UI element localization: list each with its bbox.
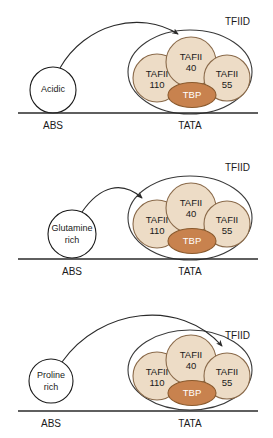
taf110-label-line2: 110 — [149, 225, 164, 236]
activator-circle — [48, 210, 96, 258]
taf110-label-line1: TAFII — [146, 68, 169, 79]
taf55-label-line2: 55 — [222, 225, 233, 236]
activator-label-line1: Glutamine — [51, 223, 92, 233]
tfiid-label: TFIID — [225, 16, 250, 27]
tfiid-activator-diagram: TAFII 110 TAFII 40 TAFII 55 TBP TFIID Ac… — [0, 0, 273, 438]
taf55-label-line2: 55 — [222, 377, 233, 388]
taf110-label-line1: TAFII — [146, 366, 169, 377]
activator-label-line1: Proline — [37, 370, 65, 380]
activator-circle — [29, 359, 73, 403]
tbp-label: TBP — [183, 89, 201, 100]
tbp-label: TBP — [183, 235, 201, 246]
activator-label-line2: rich — [65, 235, 80, 245]
tbp-label: TBP — [183, 387, 201, 398]
abs-label: ABS — [62, 266, 82, 277]
abs-label: ABS — [43, 120, 63, 131]
abs-label: ABS — [41, 418, 61, 429]
activator-label-line2: rich — [44, 382, 59, 392]
tfiid-label: TFIID — [225, 330, 250, 341]
tata-label: TATA — [178, 418, 202, 429]
taf110-label-line2: 110 — [149, 377, 164, 388]
interaction-arrow — [82, 188, 142, 212]
tata-label: TATA — [178, 120, 202, 131]
panel-proline-rich: TAFII 110 TAFII 40 TAFII 55 TBP TFIID Pr… — [0, 292, 273, 438]
taf40-label-line1: TAFII — [180, 197, 203, 208]
panel-glutamine-rich: TAFII 110 TAFII 40 TAFII 55 TBP TFIID Gl… — [0, 146, 273, 292]
taf110-label-line1: TAFII — [146, 214, 169, 225]
taf110-label-line2: 110 — [149, 79, 164, 90]
taf40-label-line1: TAFII — [180, 51, 203, 62]
taf55-label-line1: TAFII — [216, 366, 239, 377]
panel-acidic: TAFII 110 TAFII 40 TAFII 55 TBP TFIID Ac… — [0, 0, 273, 146]
taf40-label-line1: TAFII — [180, 349, 203, 360]
tata-label: TATA — [178, 266, 202, 277]
taf40-label-line2: 40 — [186, 208, 197, 219]
taf55-label-line1: TAFII — [216, 68, 239, 79]
taf55-label-line2: 55 — [222, 79, 233, 90]
tfiid-label: TFIID — [225, 162, 250, 173]
taf55-label-line1: TAFII — [216, 214, 239, 225]
activator-label-line1: Acidic — [41, 84, 66, 94]
taf40-label-line2: 40 — [186, 62, 197, 73]
taf40-label-line2: 40 — [186, 360, 197, 371]
